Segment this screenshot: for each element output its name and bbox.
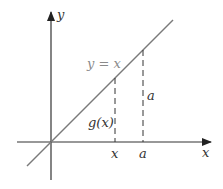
line-label: y = x <box>86 56 122 71</box>
segment-label-a: a <box>147 88 155 103</box>
diagram: y x y = x x a g(x) a <box>0 0 223 189</box>
tick-label-x: x <box>111 146 119 161</box>
segment-label-gx: g(x) <box>88 115 114 130</box>
tick-label-a: a <box>139 146 147 161</box>
y-axis-label: y <box>56 7 65 22</box>
x-axis-label: x <box>202 145 210 160</box>
